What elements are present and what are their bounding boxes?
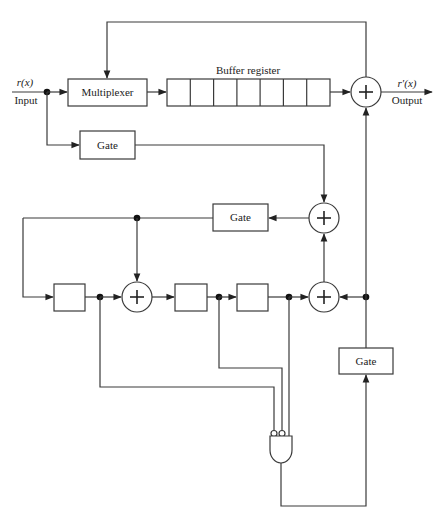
input-signal-label: r(x)	[17, 76, 34, 89]
adder-feedback	[309, 203, 339, 233]
shift-stage-1	[54, 284, 85, 311]
decoder-block-diagram: r(x) Input Multiplexer Buffer register r…	[0, 0, 447, 520]
adder-shift-2	[309, 282, 339, 312]
adder-shift-1	[122, 282, 152, 312]
multiplexer-label: Multiplexer	[82, 86, 134, 98]
gate-1-label: Gate	[97, 139, 118, 151]
adder-output	[351, 77, 381, 107]
buffer-register: Buffer register	[167, 64, 330, 106]
buffer-register-label: Buffer register	[216, 64, 281, 76]
multiplexer-block: Multiplexer	[68, 79, 147, 106]
tap-line-stage-2	[219, 297, 282, 431]
tap-line-stage-1	[100, 297, 274, 431]
shift-stage-3	[237, 284, 268, 311]
buffer-register-box	[167, 79, 330, 106]
gate-2-label: Gate	[230, 211, 251, 223]
output-section: r′(x) Output	[381, 77, 432, 106]
input-label: Input	[14, 94, 37, 106]
gate-3-block: Gate	[339, 348, 393, 374]
gate-3-label: Gate	[356, 355, 377, 367]
gate-1-block: Gate	[80, 131, 135, 159]
input-section: r(x) Input	[12, 76, 67, 106]
output-label: Output	[392, 94, 423, 106]
gate-2-block: Gate	[213, 204, 268, 231]
line-and-gate-to-gate-3	[281, 375, 366, 506]
line-gate-1-to-adder	[135, 145, 324, 202]
shift-stage-2	[175, 284, 207, 311]
loop-line-to-stage-1	[23, 218, 53, 297]
and-gate-body	[270, 436, 292, 463]
output-signal-label: r′(x)	[398, 77, 417, 90]
